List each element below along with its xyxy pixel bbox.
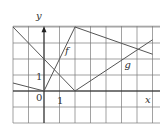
origin-label: 0: [36, 92, 42, 103]
x-axis-label: x: [145, 94, 151, 105]
x-tick-label-1: 1: [57, 95, 63, 106]
y-tick-label-1: 1: [36, 71, 42, 82]
curve-g-label: g: [125, 59, 131, 70]
curve-f-label: f: [64, 45, 71, 56]
y-axis-label: y: [35, 10, 42, 21]
graph-figure: y x 0 1 1 f g: [0, 0, 160, 130]
